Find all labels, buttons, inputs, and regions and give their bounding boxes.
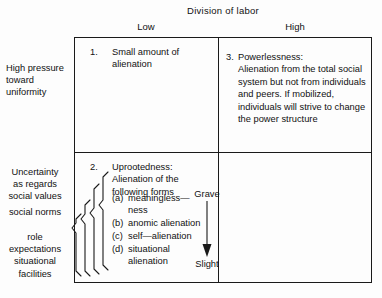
top-axis-title: Division of labor	[74, 5, 372, 16]
severity-scale: Grave Slight	[183, 189, 231, 273]
quadrant-3-title: Powerlessness:	[238, 51, 368, 63]
row-label-high-pressure-line-3: uniformity	[6, 86, 64, 98]
brace-inner-2	[90, 184, 99, 274]
brace-inner-3	[81, 200, 90, 276]
quadrant-3-text: Alienation from the total social system …	[238, 63, 368, 125]
row-label-high-pressure: High pressure toward uniformity	[6, 62, 64, 99]
subform-tag-a: (a)	[112, 193, 123, 205]
brace-inner-1	[99, 172, 108, 270]
quadrant-2-title: Uprootedness:	[112, 161, 216, 173]
nested-brace-connectors	[58, 170, 112, 278]
subform-tag-c: (c)	[112, 231, 123, 243]
quadrant-1-text: Small amount of alienation	[112, 46, 212, 71]
severity-label-grave: Grave	[183, 189, 231, 199]
subform-tag-b: (b)	[112, 218, 123, 230]
row-label-high-pressure-line-2: toward	[6, 74, 64, 86]
column-header-low: Low	[74, 21, 218, 32]
row-label-high-pressure-line-1: High pressure	[6, 62, 64, 74]
column-header-high: High	[218, 21, 372, 32]
quadrant-3-number: 3.	[226, 51, 234, 63]
matrix-horizontal-divider	[74, 152, 372, 153]
alienation-matrix-figure: Division of labor Low High High pressure…	[0, 0, 382, 298]
subform-tag-d: (d)	[112, 244, 123, 256]
quadrant-1-number: 1.	[90, 46, 98, 58]
quadrant-3-body: Powerlessness: Alienation from the total…	[238, 51, 368, 125]
subform-text-a: meaningless—ness	[128, 193, 190, 215]
subform-text-d: situational alienation	[128, 244, 170, 266]
brace-outer	[72, 214, 81, 276]
severity-label-slight: Slight	[183, 259, 231, 269]
down-arrow-icon	[183, 201, 231, 259]
